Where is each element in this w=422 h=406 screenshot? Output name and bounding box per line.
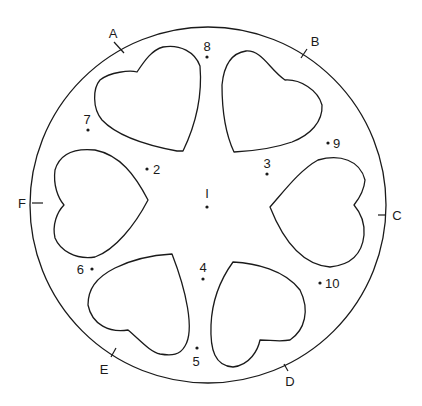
point-dot-3 <box>265 172 268 175</box>
point-label-9: 9 <box>333 136 340 151</box>
point-dot-8 <box>205 55 208 58</box>
perimeter-ticks <box>32 42 386 371</box>
perimeter-labels: ABCDEF <box>18 26 402 389</box>
point-5: 5 <box>192 346 199 369</box>
heart-circle-diagram: ABCDEF I2345678910 <box>0 0 422 406</box>
point-1: I <box>205 186 209 209</box>
point-label-2: 2 <box>153 162 160 177</box>
heart-right <box>270 158 365 267</box>
point-7: 7 <box>83 112 90 132</box>
point-dot-6 <box>90 267 93 270</box>
perimeter-label-f: F <box>18 196 26 211</box>
numbered-points: I2345678910 <box>77 39 340 369</box>
point-10: 10 <box>318 276 339 291</box>
point-label-4: 4 <box>199 260 206 275</box>
point-label-1: I <box>205 186 209 201</box>
point-label-3: 3 <box>263 156 270 171</box>
perimeter-label-b: B <box>311 34 320 49</box>
point-dot-5 <box>195 346 198 349</box>
point-label-8: 8 <box>203 39 210 54</box>
point-dot-7 <box>86 128 89 131</box>
heart-top-right <box>222 51 322 152</box>
heart-cutouts <box>54 46 365 367</box>
point-dot-1 <box>205 205 208 208</box>
point-8: 8 <box>203 39 210 59</box>
heart-bottom-left <box>88 254 189 355</box>
point-label-5: 5 <box>192 354 199 369</box>
point-2: 2 <box>145 162 160 177</box>
point-label-7: 7 <box>83 112 90 127</box>
point-label-10: 10 <box>325 276 339 291</box>
point-dot-2 <box>145 167 148 170</box>
outer-circle <box>30 27 386 383</box>
heart-bottom-right <box>211 262 305 367</box>
perimeter-label-e: E <box>100 362 109 377</box>
heart-left <box>54 150 148 258</box>
point-9: 9 <box>326 136 340 151</box>
perimeter-label-d: D <box>285 374 294 389</box>
point-dot-9 <box>326 141 329 144</box>
perimeter-label-a: A <box>109 26 118 41</box>
point-dot-10 <box>318 281 321 284</box>
heart-top-left <box>95 46 201 151</box>
perimeter-label-c: C <box>392 208 401 223</box>
point-label-6: 6 <box>77 262 84 277</box>
point-3: 3 <box>263 156 270 176</box>
point-dot-4 <box>201 277 204 280</box>
point-6: 6 <box>77 262 94 277</box>
point-4: 4 <box>199 260 206 281</box>
